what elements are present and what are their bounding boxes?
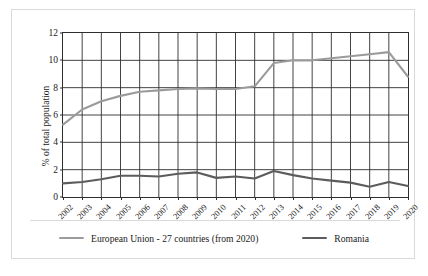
y-tick-label: 12	[49, 28, 59, 38]
y-axis-title: % of total population	[39, 43, 53, 209]
x-tick-mark	[331, 197, 332, 200]
y-tick-label: 0	[53, 192, 58, 202]
legend-swatch-eu	[59, 237, 84, 239]
x-tick-mark	[389, 197, 390, 200]
chart-legend: European Union - 27 countries (from 2020…	[24, 228, 404, 248]
y-tick-label: 2	[53, 165, 58, 175]
legend-item-eu[interactable]: European Union - 27 countries (from 2020…	[59, 233, 258, 244]
y-tick-mark	[60, 142, 63, 143]
y-tick-mark	[60, 60, 63, 61]
y-tick-mark	[60, 169, 63, 170]
chart-card: % of total population 024681012 20022003…	[11, 9, 415, 259]
legend-label-romania: Romania	[334, 233, 369, 244]
y-tick-mark	[60, 87, 63, 88]
plot-area: % of total population 024681012 20022003…	[62, 32, 409, 198]
x-tick-mark	[178, 197, 179, 200]
series-lines	[63, 33, 408, 197]
y-tick-mark	[60, 33, 63, 34]
x-tick-mark	[274, 197, 275, 200]
x-tick-mark	[293, 197, 294, 200]
x-tick-mark	[351, 197, 352, 200]
x-tick-mark	[255, 197, 256, 200]
x-tick-mark	[82, 197, 83, 200]
legend-item-romania[interactable]: Romania	[302, 233, 369, 244]
x-tick-mark	[216, 197, 217, 200]
x-tick-mark	[121, 197, 122, 200]
x-tick-mark	[197, 197, 198, 200]
x-tick-mark	[370, 197, 371, 200]
y-tick-label: 10	[49, 55, 59, 65]
x-tick-mark	[408, 197, 409, 200]
x-tick-mark	[140, 197, 141, 200]
x-tick-mark	[159, 197, 160, 200]
y-tick-mark	[60, 115, 63, 116]
legend-divider	[30, 220, 400, 221]
y-tick-label: 6	[53, 110, 58, 120]
y-tick-label: 4	[53, 137, 58, 147]
y-tick-label: 8	[53, 83, 58, 93]
chart-figure: % of total population 024681012 20022003…	[0, 0, 428, 276]
x-tick-mark	[101, 197, 102, 200]
x-tick-mark	[312, 197, 313, 200]
x-tick-mark	[63, 197, 64, 200]
legend-swatch-romania	[302, 237, 327, 239]
legend-label-eu: European Union - 27 countries (from 2020…	[91, 233, 258, 244]
x-tick-mark	[236, 197, 237, 200]
